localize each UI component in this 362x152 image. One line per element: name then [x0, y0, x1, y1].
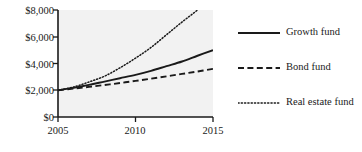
series-line-growth-fund	[58, 50, 213, 90]
legend-sample-dotted-line	[238, 97, 280, 109]
legend-sample-dashed-line	[238, 62, 280, 74]
legend-entry-real-estate-fund: Real estate fund	[238, 96, 362, 109]
legend-label-real-estate-fund: Real estate fund	[286, 96, 360, 108]
legend-label-growth-fund: Growth fund	[286, 26, 360, 38]
legend-label-bond-fund: Bond fund	[286, 61, 360, 73]
series-line-real-estate-fund	[58, 0, 213, 90]
legend-sample-solid-line	[238, 27, 280, 39]
legend-entry-bond-fund: Bond fund	[238, 61, 362, 74]
plot-svg	[0, 0, 362, 152]
line-chart-figure: $8,000 $6,000 $4,000 $2,000 $0 2005 2010…	[0, 0, 362, 152]
legend-entry-growth-fund: Growth fund	[238, 26, 362, 39]
